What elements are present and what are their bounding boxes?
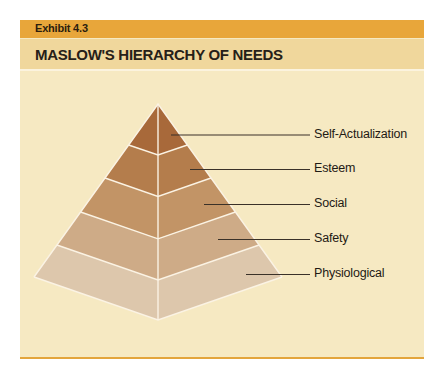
label-self-actualization: Self-Actualization: [314, 127, 407, 141]
label-physiological: Physiological: [314, 266, 384, 280]
pyramid-diagram: [0, 0, 438, 379]
label-safety: Safety: [314, 231, 348, 245]
label-social: Social: [314, 196, 347, 210]
label-esteem: Esteem: [314, 161, 355, 175]
